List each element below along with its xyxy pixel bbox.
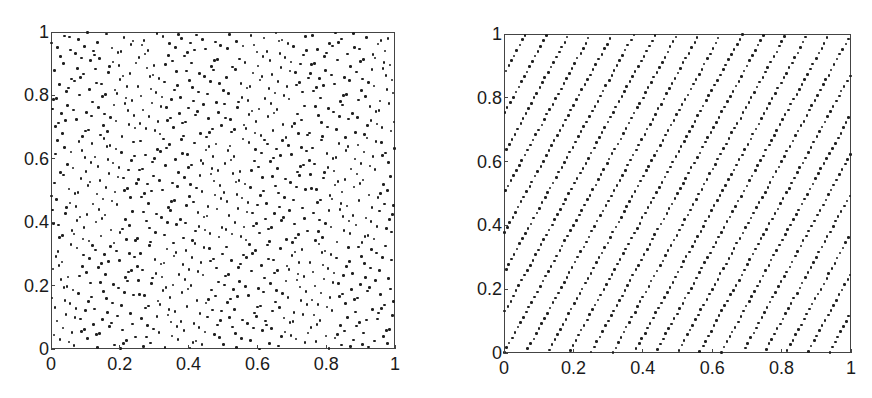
data-point (800, 324, 803, 327)
data-point (810, 225, 813, 228)
data-point (259, 194, 262, 197)
data-point (600, 173, 603, 176)
data-point (507, 263, 510, 266)
data-point (525, 112, 528, 115)
data-point (699, 110, 702, 113)
data-point (191, 86, 194, 89)
data-point (185, 204, 188, 207)
data-point (337, 180, 340, 183)
data-point (554, 97, 557, 100)
data-point (754, 49, 757, 52)
data-point (273, 212, 276, 215)
data-point (94, 249, 97, 252)
data-point (629, 159, 632, 162)
data-point (830, 309, 833, 312)
data-point (220, 197, 223, 200)
data-point (659, 264, 662, 267)
data-point (684, 57, 687, 60)
data-point (340, 344, 343, 347)
data-point (66, 104, 69, 107)
data-point (290, 153, 293, 156)
data-point (685, 135, 688, 138)
data-point (734, 205, 737, 208)
data-point (738, 279, 741, 282)
data-point (738, 158, 741, 161)
data-point (159, 150, 162, 153)
data-point (63, 146, 66, 149)
data-point (352, 32, 355, 35)
data-point (569, 229, 572, 232)
data-point (339, 100, 342, 103)
data-point (643, 55, 646, 58)
data-point (371, 68, 374, 71)
data-point (619, 258, 622, 261)
data-point (318, 219, 321, 222)
data-point (278, 206, 281, 209)
data-point (631, 274, 634, 277)
data-point (124, 276, 127, 279)
data-point (219, 319, 222, 322)
data-point (580, 209, 583, 212)
data-point (525, 190, 528, 193)
data-point (77, 191, 80, 194)
data-point (97, 106, 100, 109)
data-point (627, 243, 630, 246)
data-point (722, 68, 725, 71)
data-point (546, 191, 549, 194)
data-point (719, 74, 722, 77)
data-point (722, 267, 725, 270)
data-point (258, 232, 261, 235)
data-point (710, 89, 713, 92)
data-point (213, 333, 216, 336)
data-point (269, 282, 272, 285)
data-point (508, 64, 511, 67)
data-point (353, 46, 356, 49)
data-point (537, 249, 540, 252)
data-point (515, 49, 518, 52)
data-point (567, 192, 570, 195)
data-point (342, 94, 345, 97)
data-point (587, 157, 590, 160)
data-point (762, 233, 765, 236)
data-point (822, 83, 825, 86)
data-point (698, 350, 701, 353)
data-point (302, 54, 305, 57)
data-point (277, 192, 280, 195)
data-point (794, 333, 797, 336)
data-point (818, 130, 821, 133)
data-point (775, 129, 778, 132)
data-point (360, 255, 363, 258)
data-point (614, 106, 617, 109)
data-point (371, 308, 374, 311)
data-point (331, 45, 334, 48)
data-point (758, 81, 761, 84)
data-point (220, 310, 223, 313)
data-point (229, 298, 232, 301)
data-point (784, 233, 787, 236)
data-point (674, 197, 677, 200)
y-tick (504, 97, 508, 98)
x-tick (395, 345, 396, 349)
data-point (208, 145, 211, 148)
data-point (120, 50, 123, 53)
data-point (628, 200, 631, 203)
data-point (783, 155, 786, 158)
data-point (274, 185, 277, 188)
data-point (169, 117, 172, 120)
data-point (131, 99, 134, 102)
data-point (301, 91, 304, 94)
data-point (799, 46, 802, 49)
data-point (539, 285, 542, 288)
data-point (717, 278, 720, 281)
data-point (663, 296, 666, 299)
data-point (122, 342, 125, 345)
data-point (358, 321, 361, 324)
data-point (254, 148, 257, 151)
data-point (83, 226, 86, 229)
data-point (553, 139, 556, 142)
data-point (731, 210, 734, 213)
data-point (276, 167, 279, 170)
data-point (76, 219, 79, 222)
data-point (636, 227, 639, 230)
data-point (378, 269, 381, 272)
